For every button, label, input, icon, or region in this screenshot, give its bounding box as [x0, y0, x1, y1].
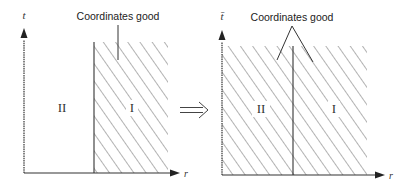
left-region-II-label: II: [58, 100, 67, 115]
right-panel: t̄ r II I Coordinates good: [219, 10, 394, 181]
right-hatched-regions: [222, 46, 367, 175]
left-r-axis-arrowhead-icon: [170, 170, 180, 177]
right-r-axis-arrowhead-icon: [375, 172, 385, 179]
right-r-axis-label: r: [389, 170, 393, 181]
left-region-I-label: I: [130, 100, 134, 115]
left-panel: t r II I Coordinates good: [21, 9, 189, 179]
left-r-axis-label: r: [184, 168, 188, 179]
left-t-axis-label: t: [22, 9, 26, 21]
left-t-axis-arrowhead-icon: [21, 28, 28, 38]
right-tbar-axis-arrowhead-icon: [219, 30, 226, 40]
implies-arrow-icon: [180, 102, 208, 118]
right-tbar-axis-label: t̄: [220, 10, 224, 22]
left-annotation: Coordinates good: [77, 10, 160, 22]
right-region-I-label: I: [332, 101, 336, 116]
coordinate-diagram: t r II I Coordinates good t̄ r II I Coor…: [0, 0, 403, 185]
right-region-II-label: II: [257, 101, 266, 116]
right-annotation: Coordinates good: [251, 11, 334, 23]
